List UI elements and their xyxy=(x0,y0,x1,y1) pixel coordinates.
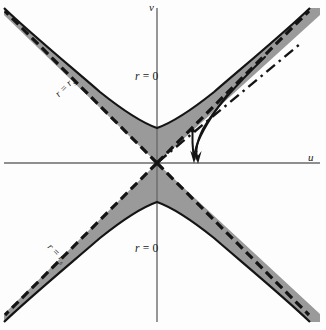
worldline-start-dot xyxy=(191,128,195,132)
axis-label-u: u xyxy=(308,152,314,163)
shaded-region-upper xyxy=(4,8,320,163)
label-r-equals-zero-top: r = 0 xyxy=(135,71,158,83)
r-equals-zero-bottom-value: = 0 xyxy=(140,242,159,254)
label-r-equals-zero-bottom: r = 0 xyxy=(135,243,158,255)
shaded-region-group xyxy=(4,8,320,322)
null-ray-dash-dot xyxy=(158,44,300,162)
diagram-canvas xyxy=(0,0,326,330)
worldline-stub xyxy=(192,131,193,155)
kruskal-szekeres-figure: v u r = 0 r = 0 r = rs r = rs xyxy=(0,0,326,330)
axis-label-v: v xyxy=(149,2,154,13)
r-equals-zero-top-value: = 0 xyxy=(140,70,159,82)
